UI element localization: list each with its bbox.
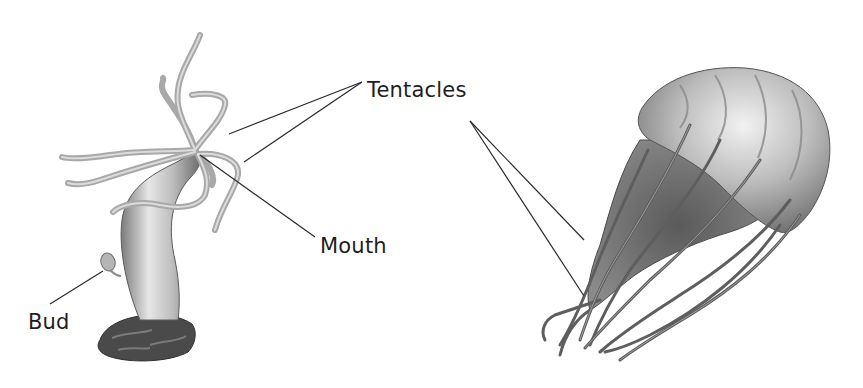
hydra-bud: [99, 251, 117, 272]
tentacles-leader-line-1: [229, 82, 362, 134]
hydra-illustration: [62, 35, 238, 361]
tentacles-label: Tentacles: [367, 80, 467, 101]
diagram-canvas: Tentacles Mouth Bud: [0, 0, 863, 388]
bud-label: Bud: [28, 312, 70, 333]
hydra-body: [121, 152, 200, 320]
illustration: [0, 0, 863, 388]
mouth-label: Mouth: [320, 236, 387, 257]
tentacles-leader-line-2: [244, 82, 362, 162]
tentacles-leader-line-3: [470, 121, 584, 240]
bud-leader-line: [50, 271, 103, 304]
tentacles-leader-line-4: [470, 121, 584, 296]
jellyfish-illustration: [543, 68, 830, 360]
hydra-tentacles: [62, 35, 238, 230]
